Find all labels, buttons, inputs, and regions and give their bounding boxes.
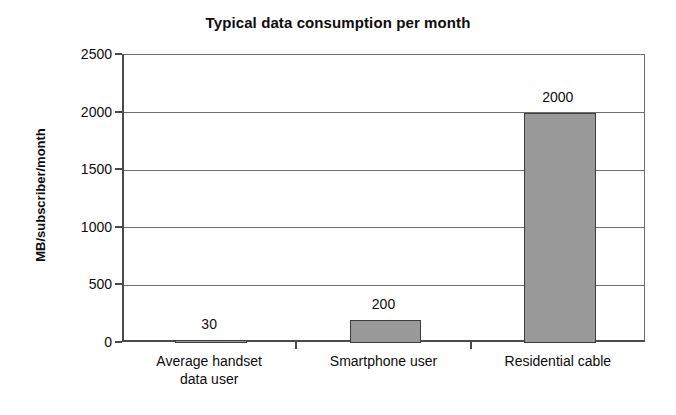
- y-axis-tick-label: 1500: [4, 162, 112, 176]
- y-axis-tick-mark: [115, 283, 122, 285]
- y-axis-tick-mark: [115, 226, 122, 228]
- bar-value-label: 200: [324, 297, 444, 311]
- y-axis-tick-mark: [115, 111, 122, 113]
- y-axis-tick-mark: [115, 53, 122, 55]
- x-axis-category-label: Residential cable: [468, 352, 648, 370]
- y-axis-tick-label: 2500: [4, 47, 112, 61]
- y-axis-tick-mark: [115, 168, 122, 170]
- bar: [175, 340, 246, 343]
- x-axis-category-label: Smartphone user: [294, 352, 474, 370]
- x-axis-tick-mark: [295, 342, 297, 349]
- y-axis-title: MB/subscriber/month: [32, 50, 50, 340]
- x-axis-tick-mark: [470, 342, 472, 349]
- y-axis-tick-label: 500: [4, 277, 112, 291]
- bar: [524, 113, 595, 343]
- y-axis-tick-label: 1000: [4, 220, 112, 234]
- x-axis-category-label-line: Residential cable: [468, 352, 648, 370]
- x-axis-category-label: Average handsetdata user: [119, 352, 299, 388]
- bar-chart: Typical data consumption per month MB/su…: [0, 0, 676, 415]
- bar-value-label: 2000: [498, 90, 618, 104]
- y-axis-tick-mark: [115, 341, 122, 343]
- x-axis-category-label-line: Average handset: [119, 352, 299, 370]
- x-axis-category-label-line: Smartphone user: [294, 352, 474, 370]
- x-axis-category-label-line: data user: [119, 370, 299, 388]
- y-axis-tick-label: 2000: [4, 105, 112, 119]
- chart-title: Typical data consumption per month: [0, 14, 676, 31]
- bar-value-label: 30: [149, 317, 269, 331]
- y-axis-tick-label: 0: [4, 335, 112, 349]
- bar: [350, 320, 421, 343]
